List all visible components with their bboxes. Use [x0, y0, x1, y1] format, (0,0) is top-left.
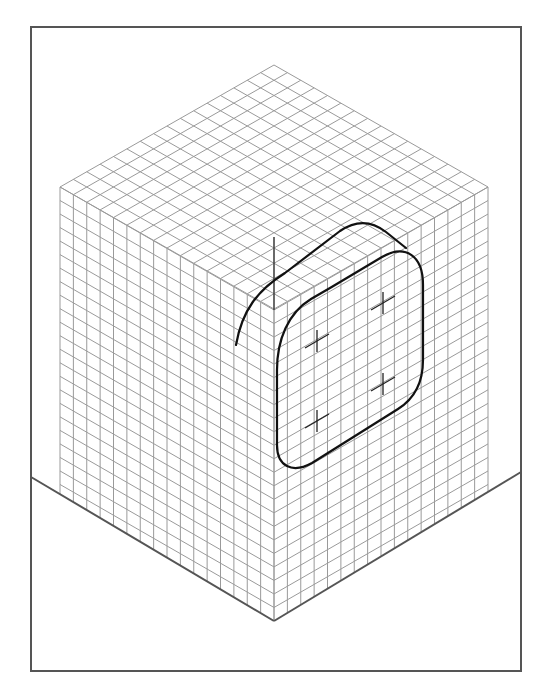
rounded-square-outline	[277, 252, 423, 468]
isometric-drawing	[0, 0, 551, 689]
